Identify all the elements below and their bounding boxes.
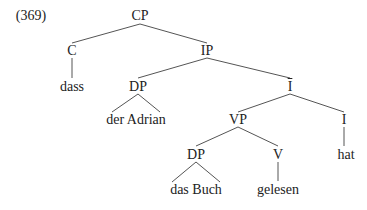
tree-edge: [112, 94, 138, 112]
node-dp-subject: DP: [129, 80, 147, 94]
tree-edge: [72, 24, 140, 43]
tree-edge: [138, 58, 207, 78]
leaf-gelesen: gelesen: [257, 183, 299, 197]
tree-edge: [196, 162, 220, 182]
tree-edge: [238, 94, 290, 112]
tree-edges: [0, 0, 367, 210]
tree-edge: [238, 127, 278, 146]
tree-edge: [138, 94, 160, 112]
syntax-tree-diagram: (369) CP C dass IP DP der Adrian I VP I …: [0, 0, 367, 210]
node-dp-object: DP: [187, 148, 205, 162]
leaf-dass: dass: [60, 80, 84, 94]
node-c: C: [67, 44, 76, 58]
node-i: I: [342, 113, 347, 127]
node-i-bar: I: [288, 80, 293, 94]
tree-edge: [172, 162, 196, 182]
node-ip: IP: [201, 44, 213, 58]
leaf-das-buch: das Buch: [170, 183, 222, 197]
tree-edge: [290, 94, 344, 112]
node-vp: VP: [229, 113, 247, 127]
tree-edge: [196, 127, 238, 146]
node-v: V: [273, 148, 283, 162]
node-cp: CP: [131, 9, 148, 23]
tree-edge: [140, 24, 207, 43]
example-number: (369): [16, 9, 46, 23]
leaf-der-adrian: der Adrian: [106, 113, 165, 127]
leaf-hat: hat: [337, 148, 354, 162]
tree-edge: [207, 58, 290, 78]
